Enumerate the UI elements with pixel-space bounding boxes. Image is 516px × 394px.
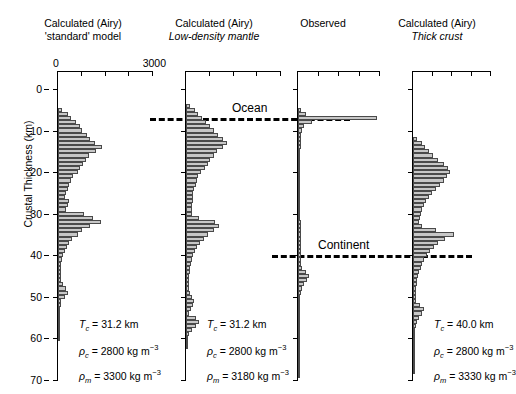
annotation-superscript: −3 bbox=[150, 343, 159, 352]
annotation-superscript: −3 bbox=[507, 368, 516, 377]
panel-title-line2: Thick crust bbox=[378, 30, 496, 43]
x-tick-mark bbox=[256, 71, 257, 76]
x-axis-low-density-mantle bbox=[185, 71, 280, 89]
plot-area-thick-crust bbox=[412, 89, 490, 380]
annotation-value: = 3330 kg m bbox=[446, 370, 507, 382]
annotation-value: = 2800 kg m bbox=[444, 345, 505, 357]
x-tick-mark bbox=[432, 71, 433, 76]
panel-title-line1: Observed bbox=[262, 17, 384, 30]
panel-title-line1: Calculated (Airy) bbox=[150, 17, 278, 30]
x-axis-observed bbox=[297, 71, 379, 89]
annotation-superscript: −3 bbox=[152, 368, 161, 377]
histogram-bar bbox=[413, 370, 415, 374]
annotation-value: = 31.2 km bbox=[89, 318, 138, 330]
x-tick-mark bbox=[81, 71, 82, 76]
annotation-value: = 2800 kg m bbox=[89, 345, 150, 357]
histogram-bar bbox=[298, 374, 300, 378]
axis-connector bbox=[297, 71, 298, 89]
histogram-bars-observed bbox=[298, 89, 380, 380]
x-tick-mark bbox=[451, 71, 452, 76]
histogram-bar bbox=[186, 345, 188, 349]
x-axis-standard: 03000 bbox=[57, 71, 152, 89]
annotation-rho-m-thick-crust: ρm = 3330 kg m−3 bbox=[434, 368, 516, 385]
panel-y-tick bbox=[181, 380, 186, 381]
panel-title-low-density-mantle: Calculated (Airy)Low-density mantle bbox=[150, 17, 278, 43]
histogram-bars-thick-crust bbox=[413, 89, 491, 380]
x-axis-max-label: 3000 bbox=[143, 57, 166, 69]
annotation-tc-standard: Tc = 31.2 km bbox=[79, 318, 139, 333]
panel-title-line2: 'standard' model bbox=[8, 30, 158, 43]
histogram-bars-standard bbox=[58, 89, 153, 380]
axis-connector bbox=[412, 71, 413, 89]
x-tick-mark bbox=[152, 71, 153, 76]
x-tick-mark bbox=[209, 71, 210, 76]
annotation-value: = 2800 kg m bbox=[217, 345, 278, 357]
annotation-value: = 3180 kg m bbox=[219, 370, 280, 382]
annotation-rho-c-standard: ρc = 2800 kg m−3 bbox=[79, 343, 158, 360]
x-axis-thick-crust bbox=[412, 71, 490, 89]
x-tick-mark bbox=[233, 71, 234, 76]
x-tick-mark bbox=[128, 71, 129, 76]
histogram-bar bbox=[58, 336, 60, 340]
plot-area-low-density-mantle bbox=[185, 89, 280, 380]
histogram-bars-low-density-mantle bbox=[186, 89, 281, 380]
panel-title-standard: Calculated (Airy)'standard' model bbox=[8, 17, 158, 43]
x-tick-mark bbox=[105, 71, 106, 76]
axis-connector bbox=[185, 71, 186, 89]
axis-connector bbox=[57, 71, 58, 89]
annotation-superscript: −3 bbox=[280, 368, 289, 377]
annotation-rho-m-standard: ρm = 3300 kg m−3 bbox=[79, 368, 161, 385]
annotation-value: = 31.2 km bbox=[217, 318, 266, 330]
panel-y-tick bbox=[408, 380, 413, 381]
panel-y-tick bbox=[53, 380, 58, 381]
x-tick-mark bbox=[280, 71, 281, 76]
annotation-tc-low-density-mantle: Tc = 31.2 km bbox=[207, 318, 267, 333]
plot-area-standard bbox=[57, 89, 152, 380]
plot-area-observed bbox=[297, 89, 379, 380]
x-tick-mark bbox=[490, 71, 491, 76]
panel-title-line1: Calculated (Airy) bbox=[378, 17, 496, 30]
panel-title-line1: Calculated (Airy) bbox=[8, 17, 158, 30]
annotation-rho-c-thick-crust: ρc = 2800 kg m−3 bbox=[434, 343, 513, 360]
annotation-value: = 40.0 km bbox=[444, 318, 493, 330]
x-axis-min-label: 0 bbox=[53, 57, 59, 69]
panel-title-observed: Observed bbox=[262, 17, 384, 30]
x-tick-mark bbox=[359, 71, 360, 76]
annotation-rho-m-low-density-mantle: ρm = 3180 kg m−3 bbox=[207, 368, 289, 385]
annotation-value: = 3300 kg m bbox=[91, 370, 152, 382]
x-tick-mark bbox=[471, 71, 472, 76]
x-tick-mark bbox=[379, 71, 380, 76]
annotation-superscript: −3 bbox=[278, 343, 287, 352]
panel-title-line2: Low-density mantle bbox=[150, 30, 278, 43]
annotation-superscript: −3 bbox=[505, 343, 514, 352]
panel-title-thick-crust: Calculated (Airy)Thick crust bbox=[378, 17, 496, 43]
x-tick-mark bbox=[318, 71, 319, 76]
panel-y-tick bbox=[293, 380, 298, 381]
x-tick-mark bbox=[338, 71, 339, 76]
annotation-rho-c-low-density-mantle: ρc = 2800 kg m−3 bbox=[207, 343, 286, 360]
annotation-tc-thick-crust: Tc = 40.0 km bbox=[434, 318, 494, 333]
